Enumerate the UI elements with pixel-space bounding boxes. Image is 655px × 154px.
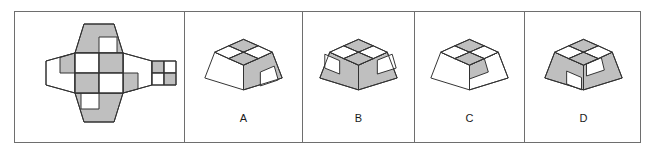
option-label-b: B (303, 112, 414, 124)
net-face-right-trapezoid (123, 53, 152, 93)
net-face-lower-trapezoid (75, 93, 123, 122)
option-panel-c[interactable]: C (414, 12, 524, 142)
puzzle-page: A (0, 0, 655, 154)
puzzle-frame: A (14, 11, 641, 143)
option-panel-b[interactable]: B (302, 12, 414, 142)
net-figure (15, 12, 184, 142)
net-face-upper-trapezoid (75, 24, 123, 53)
net-face-left-trapezoid (46, 53, 75, 93)
net-panel (15, 12, 184, 142)
option-label-c: C (415, 112, 524, 124)
option-label-a: A (185, 112, 302, 124)
option-panel-a[interactable]: A (184, 12, 302, 142)
net-face-top-square (75, 53, 123, 93)
option-label-d: D (525, 112, 642, 124)
net-face-base-square (152, 61, 176, 85)
option-panel-d[interactable]: D (524, 12, 642, 142)
